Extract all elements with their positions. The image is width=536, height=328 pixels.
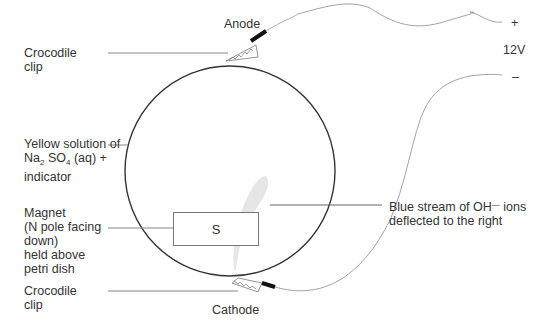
stream-label: Blue stream of OH— ions deflected to the… <box>389 198 526 228</box>
stream-line1: Blue stream of OH— ions <box>389 198 526 214</box>
solution-line2: Na2 SO4 (aq) + <box>24 151 120 170</box>
magnet-pole-label: S <box>212 222 221 237</box>
croc-clip-top-label: Crocodile clip <box>24 46 77 74</box>
cathode-label: Cathode <box>212 303 259 317</box>
magnet-line4: held above <box>24 248 101 262</box>
magnet-line2: (N pole facing <box>24 220 101 234</box>
cathode-clip <box>232 278 275 292</box>
na-text: Na <box>24 151 40 165</box>
so-text: SO <box>44 151 66 165</box>
solution-label: Yellow solution of Na2 SO4 (aq) + indica… <box>24 137 120 184</box>
croc-clip-bottom-label: Crocodile clip <box>24 284 77 312</box>
solution-line1: Yellow solution of <box>24 137 120 151</box>
magnet-box: S <box>173 212 259 246</box>
wire-negative <box>275 74 502 290</box>
magnet-line5: petri dish <box>24 262 101 276</box>
stream-line2: deflected to the right <box>389 214 526 228</box>
stream-text-a: Blue stream of OH <box>389 200 492 214</box>
voltage-label: 12V <box>503 43 525 57</box>
croc-top-line1: Crocodile <box>24 46 77 60</box>
magnet-line3: down) <box>24 234 101 248</box>
anode-label: Anode <box>224 17 260 31</box>
croc-top-line2: clip <box>24 60 77 74</box>
solution-line3: indicator <box>24 170 120 184</box>
aq-text: (aq) + <box>70 151 106 165</box>
stream-text-b: ions <box>500 200 526 214</box>
croc-bottom-line2: clip <box>24 298 77 312</box>
croc-bottom-line1: Crocodile <box>24 284 77 298</box>
magnet-line1: Magnet <box>24 206 101 220</box>
negative-terminal: – <box>512 70 519 84</box>
magnet-label: Magnet (N pole facing down) held above p… <box>24 206 101 276</box>
positive-terminal: + <box>511 16 518 30</box>
oh-charge: — <box>492 200 500 209</box>
wire-positive <box>298 4 502 26</box>
